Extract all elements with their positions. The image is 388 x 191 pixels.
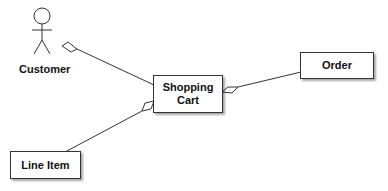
- association-line-cart-order: [238, 72, 301, 87]
- class-label-order: Order: [322, 59, 352, 72]
- aggregation-diamond-cart-order: [222, 87, 238, 93]
- aggregation-diamond-customer: [62, 42, 77, 52]
- actor-icon: [32, 8, 52, 54]
- class-order[interactable]: Order: [300, 52, 374, 79]
- class-shopping-cart[interactable]: Shopping Cart: [153, 75, 223, 113]
- association-line-cart-lineitem: [65, 111, 142, 152]
- class-line-item[interactable]: Line Item: [10, 151, 81, 179]
- actor-label-customer: Customer: [19, 63, 70, 75]
- class-label-line-item: Line Item: [21, 159, 69, 172]
- class-label-shopping-cart-line1: Shopping: [163, 81, 214, 94]
- class-label-shopping-cart-line2: Cart: [177, 94, 199, 107]
- association-line-customer-cart: [77, 49, 154, 85]
